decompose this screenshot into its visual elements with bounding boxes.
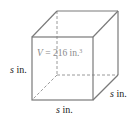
edge-unit: in. bbox=[14, 64, 27, 75]
cube-diagram bbox=[0, 0, 131, 120]
edge-unit: in. bbox=[60, 104, 73, 115]
edge-label-left: s in. bbox=[10, 65, 27, 75]
edge-label-bottom: s in. bbox=[56, 105, 73, 115]
edge-unit: in. bbox=[114, 88, 127, 99]
volume-exponent: 3 bbox=[79, 48, 82, 54]
volume-value: = 216 in. bbox=[43, 48, 80, 58]
edge-label-depth: s in. bbox=[110, 89, 127, 99]
volume-label: V = 216 in.3 bbox=[37, 49, 82, 59]
